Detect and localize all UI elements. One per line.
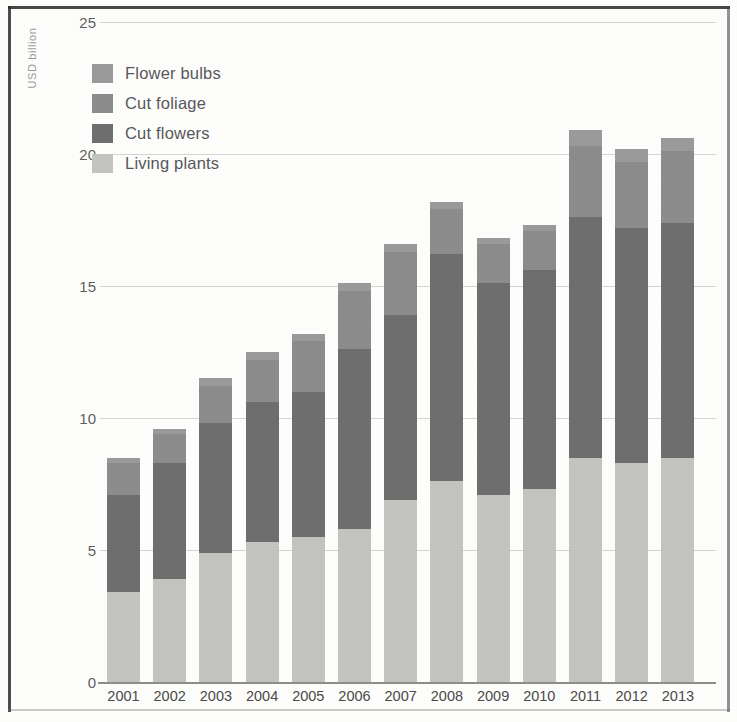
bar-segment-cut-flowers[interactable] [199, 423, 232, 552]
bar-segment-cut-foliage[interactable] [107, 463, 140, 495]
bar-segment-flower-bulbs[interactable] [153, 429, 186, 434]
legend-item[interactable]: Cut flowers [92, 118, 221, 148]
x-axis-ticks: 2001200220032004200520062007200820092010… [68, 688, 716, 718]
bar-segment-cut-flowers[interactable] [384, 315, 417, 500]
bar-segment-flower-bulbs[interactable] [384, 244, 417, 252]
x-axis-tick-label: 2005 [285, 688, 331, 704]
y-axis-tick-label: 15 [62, 278, 96, 295]
x-axis-tick-label: 2008 [424, 688, 470, 704]
bar-segment-flower-bulbs[interactable] [246, 352, 279, 360]
bar-2005[interactable] [292, 14, 325, 682]
bar-segment-cut-foliage[interactable] [338, 291, 371, 349]
bar-segment-cut-foliage[interactable] [477, 244, 510, 284]
bar-segment-cut-flowers[interactable] [523, 270, 556, 489]
bar-segment-living-plants[interactable] [153, 579, 186, 682]
bar-segment-cut-flowers[interactable] [292, 392, 325, 537]
bar-segment-cut-flowers[interactable] [477, 283, 510, 494]
x-axis-tick-label: 2007 [378, 688, 424, 704]
bar-segment-cut-foliage[interactable] [292, 341, 325, 391]
legend-item[interactable]: Living plants [92, 148, 221, 178]
bar-2010[interactable] [523, 14, 556, 682]
x-axis-tick-label: 2013 [655, 688, 701, 704]
legend-item-label: Cut foliage [125, 94, 206, 113]
bar-segment-flower-bulbs[interactable] [523, 225, 556, 230]
bar-segment-living-plants[interactable] [430, 481, 463, 682]
bar-segment-cut-flowers[interactable] [615, 228, 648, 463]
bar-segment-flower-bulbs[interactable] [338, 283, 371, 291]
y-axis-tick-label: 25 [62, 14, 96, 31]
bar-segment-living-plants[interactable] [615, 463, 648, 682]
bar-segment-flower-bulbs[interactable] [199, 378, 232, 386]
bar-segment-flower-bulbs[interactable] [615, 149, 648, 162]
frame-border-top [8, 6, 730, 9]
bar-segment-living-plants[interactable] [661, 458, 694, 682]
bar-segment-cut-flowers[interactable] [107, 495, 140, 593]
legend-item-label: Flower bulbs [125, 64, 221, 83]
bar-segment-cut-foliage[interactable] [246, 360, 279, 402]
x-axis-tick-label: 2003 [193, 688, 239, 704]
bar-segment-living-plants[interactable] [569, 458, 602, 682]
bar-segment-flower-bulbs[interactable] [107, 458, 140, 463]
chart-legend: Flower bulbsCut foliageCut flowersLiving… [92, 58, 221, 178]
x-axis-tick-label: 2001 [101, 688, 147, 704]
bar-segment-living-plants[interactable] [292, 537, 325, 682]
bar-segment-flower-bulbs[interactable] [569, 130, 602, 146]
bar-segment-cut-flowers[interactable] [338, 349, 371, 529]
bar-2011[interactable] [569, 14, 602, 682]
legend-swatch-icon [92, 64, 113, 83]
bar-segment-cut-foliage[interactable] [153, 434, 186, 463]
legend-item[interactable]: Cut foliage [92, 88, 221, 118]
bar-segment-cut-flowers[interactable] [569, 217, 602, 457]
y-axis-title: USD billion [26, 0, 38, 118]
bar-2009[interactable] [477, 14, 510, 682]
bar-segment-living-plants[interactable] [246, 542, 279, 682]
bar-2004[interactable] [246, 14, 279, 682]
x-axis-tick-label: 2006 [332, 688, 378, 704]
bar-segment-living-plants[interactable] [107, 592, 140, 682]
bar-segment-cut-flowers[interactable] [153, 463, 186, 579]
frame-border-left [8, 6, 11, 712]
bar-2013[interactable] [661, 14, 694, 682]
y-axis-tick-label: 20 [62, 146, 96, 163]
bar-segment-living-plants[interactable] [338, 529, 371, 682]
bar-segment-cut-flowers[interactable] [661, 223, 694, 458]
bar-segment-cut-foliage[interactable] [661, 151, 694, 222]
bar-segment-cut-flowers[interactable] [246, 402, 279, 542]
bar-segment-living-plants[interactable] [523, 489, 556, 682]
bar-2012[interactable] [615, 14, 648, 682]
bar-segment-cut-foliage[interactable] [615, 162, 648, 228]
legend-item-label: Living plants [125, 154, 219, 173]
legend-swatch-icon [92, 154, 113, 173]
bar-segment-flower-bulbs[interactable] [661, 138, 694, 151]
legend-swatch-icon [92, 124, 113, 143]
bar-segment-cut-foliage[interactable] [523, 231, 556, 271]
bar-segment-living-plants[interactable] [199, 553, 232, 682]
frame-border-right [727, 6, 730, 712]
bar-segment-flower-bulbs[interactable] [477, 238, 510, 243]
x-axis-tick-label: 2002 [147, 688, 193, 704]
legend-item-label: Cut flowers [125, 124, 210, 143]
x-axis-tick-label: 2011 [563, 688, 609, 704]
bar-segment-flower-bulbs[interactable] [292, 334, 325, 342]
bar-2008[interactable] [430, 14, 463, 682]
y-axis-tick-label: 5 [62, 542, 96, 559]
bar-2006[interactable] [338, 14, 371, 682]
bar-segment-cut-foliage[interactable] [430, 209, 463, 254]
x-axis-tick-label: 2010 [516, 688, 562, 704]
bar-segment-cut-foliage[interactable] [199, 386, 232, 423]
x-axis-tick-label: 2009 [470, 688, 516, 704]
bar-segment-cut-foliage[interactable] [384, 252, 417, 315]
legend-swatch-icon [92, 94, 113, 113]
chart-figure: USD billion 0510152025 20012002200320042… [0, 0, 737, 722]
bar-segment-flower-bulbs[interactable] [430, 202, 463, 210]
x-axis-tick-label: 2012 [609, 688, 655, 704]
bar-segment-living-plants[interactable] [477, 495, 510, 682]
bar-2007[interactable] [384, 14, 417, 682]
bar-segment-living-plants[interactable] [384, 500, 417, 682]
legend-item[interactable]: Flower bulbs [92, 58, 221, 88]
y-axis-tick-label: 10 [62, 410, 96, 427]
bar-segment-cut-foliage[interactable] [569, 146, 602, 217]
x-axis-tick-label: 2004 [239, 688, 285, 704]
bar-segment-cut-flowers[interactable] [430, 254, 463, 481]
